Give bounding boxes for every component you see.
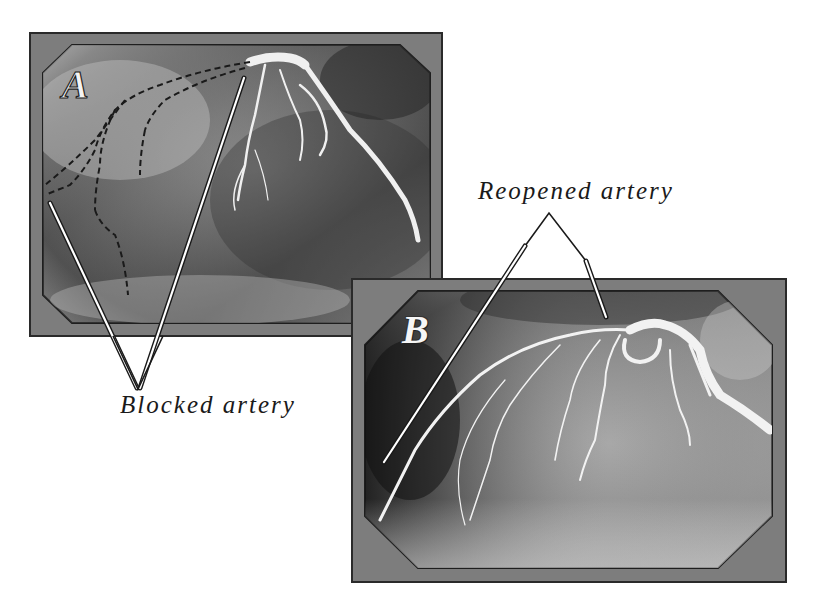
panel-a-letter: A: [62, 65, 89, 105]
panel-b-letter: B: [402, 310, 429, 350]
reopened-artery-label: Reopened artery: [478, 177, 674, 205]
angiogram-comparison-figure: A B Blocked artery Reopened artery: [0, 0, 818, 614]
blocked-artery-label: Blocked artery: [120, 391, 296, 419]
